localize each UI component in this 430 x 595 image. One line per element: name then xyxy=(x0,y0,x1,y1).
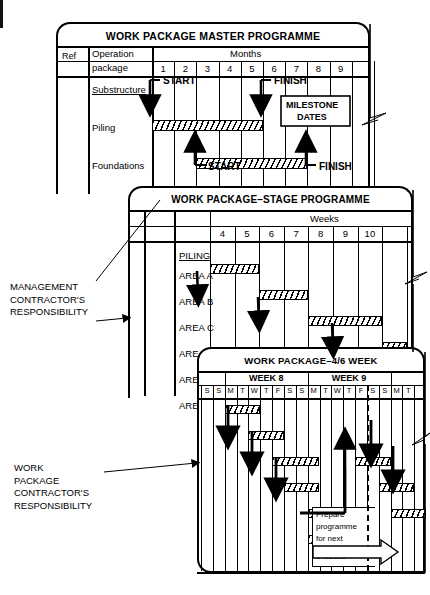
milestone-callout-line2: DATES xyxy=(297,112,327,122)
panel1-start-label-1: START xyxy=(163,75,196,86)
panel2-link-arrow-1 xyxy=(258,297,259,322)
panel2-link-arrow-0 xyxy=(197,271,198,296)
break-mark-panel2 xyxy=(405,272,427,284)
panel1-finish-label-1: FINISH xyxy=(274,75,307,86)
break-mark-panel1 xyxy=(362,113,386,125)
management-leader-1 xyxy=(96,200,160,281)
caption-contractor-responsibility: WORK PACKAGE CONTRACTOR'S RESPONSIBILITY xyxy=(14,462,92,512)
break-mark-panel3 xyxy=(412,433,430,445)
panel1-finish-label-2: FINISH xyxy=(319,161,352,172)
milestone-callout-line1: MILESTONE xyxy=(286,100,338,110)
management-leader-2 xyxy=(96,318,127,321)
contractor-leader xyxy=(104,463,196,472)
panel2-link-arrow-2 xyxy=(332,323,333,348)
panel1-start-label-2: START xyxy=(208,161,241,172)
panel3-note-arrow xyxy=(313,540,398,564)
caption-management-responsibility: MANAGEMENT CONTRACTOR'S RESPONSIBILITY xyxy=(10,281,88,319)
